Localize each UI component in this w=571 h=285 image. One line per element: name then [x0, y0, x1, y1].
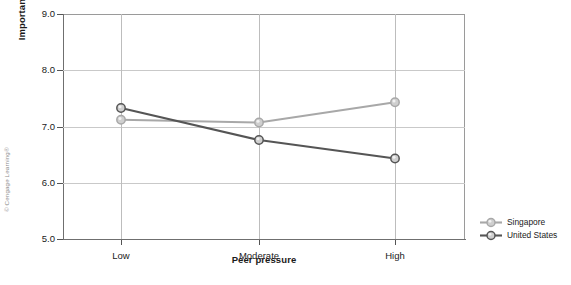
legend-label: Singapore [507, 216, 545, 229]
series-layer [63, 14, 465, 239]
data-point-marker [117, 116, 125, 124]
data-point-highlight [393, 100, 396, 103]
x-axis-tick [121, 240, 122, 245]
legend-item[interactable]: United States [479, 229, 571, 242]
data-point-marker [255, 118, 263, 126]
y-axis-tick-label: 8.0 [21, 65, 55, 75]
y-axis-tick [57, 127, 63, 128]
y-axis-tick [57, 70, 63, 71]
y-axis-tick [57, 183, 63, 184]
x-axis-title: Peer pressure [63, 254, 465, 265]
y-axis-tick [57, 14, 63, 15]
y-axis-tick-label: 5.0 [21, 234, 55, 244]
series-line [121, 108, 395, 159]
data-point-marker [391, 98, 399, 106]
legend-item[interactable]: Singapore [479, 216, 571, 229]
x-axis-line [63, 239, 466, 240]
legend-marker-icon [479, 229, 503, 242]
plot-area [63, 14, 465, 239]
y-axis-tick-label: 9.0 [21, 9, 55, 19]
legend-label: United States [507, 229, 557, 242]
y-axis-tick-label: 7.0 [21, 122, 55, 132]
data-point-highlight [119, 117, 122, 120]
chart-figure: © Cengage Learning® Importance of dispos… [0, 0, 571, 285]
x-axis-tick [259, 240, 260, 245]
copyright-watermark: © Cengage Learning® [0, 132, 14, 212]
data-point-marker [255, 136, 263, 144]
data-point-highlight [257, 120, 260, 123]
data-point-highlight [393, 156, 396, 159]
data-point-marker [117, 104, 125, 112]
y-axis-tick-label: 6.0 [21, 178, 55, 188]
legend-marker-icon [479, 216, 503, 229]
legend: SingaporeUnited States [479, 216, 571, 242]
y-axis-tick [57, 239, 63, 240]
data-point-marker [391, 154, 399, 162]
x-axis-tick [395, 240, 396, 245]
data-point-highlight [119, 105, 122, 108]
data-point-highlight [257, 137, 260, 140]
